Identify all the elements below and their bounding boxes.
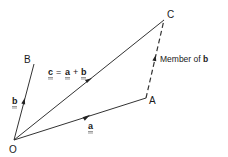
equation-term-b: b <box>81 67 87 77</box>
vector-a-label: a <box>88 121 94 131</box>
point-label-a: A <box>149 95 156 106</box>
equation-equals: = <box>56 67 61 77</box>
point-label-b: B <box>24 54 31 65</box>
equation-term-a: a <box>65 67 71 77</box>
vector-b-label: b <box>12 96 18 106</box>
arrow-b-icon <box>21 98 26 105</box>
annotation-vector: b <box>203 54 208 64</box>
annotation-prefix: Member of <box>160 54 203 64</box>
member-of-b-annotation: Member of b <box>160 54 208 64</box>
equation-lhs-c: c <box>48 67 53 77</box>
arrow-member-b-icon <box>152 55 157 62</box>
point-label-c: C <box>167 9 174 20</box>
vector-a-underline <box>88 132 93 134</box>
equation-underlines <box>48 78 86 80</box>
vector-b-underline <box>12 107 17 109</box>
vector-diagram: C B A O c = a + b b a Member of b <box>0 0 228 157</box>
point-label-o: O <box>9 144 17 155</box>
vector-a-line <box>14 98 146 140</box>
equation-plus: + <box>73 67 78 77</box>
